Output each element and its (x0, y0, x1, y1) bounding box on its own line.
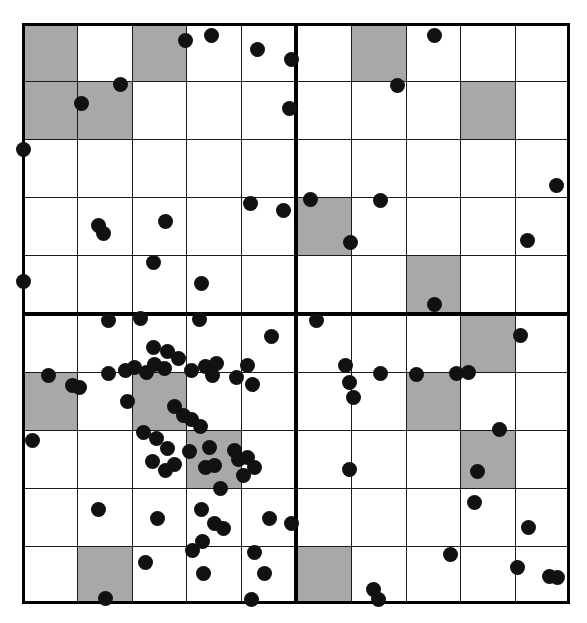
scatter-plot-grid (22, 23, 570, 604)
quadrant-divider-horizontal (22, 312, 570, 316)
plot-border-left (22, 23, 25, 604)
plot-border-bottom (22, 601, 570, 604)
plot-border-top (22, 23, 570, 26)
plot-border-right (567, 23, 570, 604)
figure-canvas (0, 0, 587, 623)
grid-lines-layer (22, 23, 570, 604)
